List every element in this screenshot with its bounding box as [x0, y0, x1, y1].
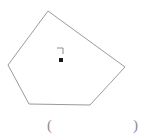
pentagon-shape [8, 11, 125, 105]
diagram-canvas: ( ) [0, 0, 142, 139]
geometry-figure [0, 0, 142, 139]
right-parenthesis-label: ) [133, 118, 138, 133]
center-point-marker [59, 58, 63, 62]
left-parenthesis-label: ( [47, 118, 52, 133]
right-angle-mark-icon [57, 48, 63, 54]
